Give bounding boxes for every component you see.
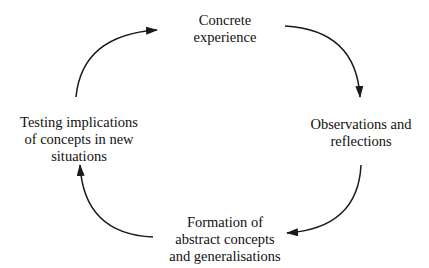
node-observations-reflections: Observations and reflections	[296, 116, 426, 150]
arrow-observations-to-formation	[287, 165, 361, 233]
node-formation-line-1: Formation of	[160, 214, 290, 231]
node-concrete-line-1: Concrete	[170, 12, 280, 29]
node-testing-line-3: situations	[12, 148, 146, 165]
node-observations-line-2: reflections	[296, 133, 426, 150]
node-formation-line-3: and generalisations	[160, 248, 290, 265]
node-formation-line-2: abstract concepts	[160, 231, 290, 248]
arrow-concrete-to-observations	[285, 26, 360, 97]
node-concrete-line-2: experience	[170, 29, 280, 46]
arrow-formation-to-testing	[80, 165, 153, 237]
node-testing-line-1: Testing implications	[12, 114, 146, 131]
node-observations-line-1: Observations and	[296, 116, 426, 133]
node-formation-abstract-concepts: Formation of abstract concepts and gener…	[160, 214, 290, 265]
learning-cycle-diagram: Concrete experience Observations and ref…	[0, 0, 429, 268]
node-concrete-experience: Concrete experience	[170, 12, 280, 46]
arrow-testing-to-concrete	[76, 30, 157, 97]
node-testing-line-2: of concepts in new	[12, 131, 146, 148]
node-testing-implications: Testing implications of concepts in new …	[12, 114, 146, 165]
